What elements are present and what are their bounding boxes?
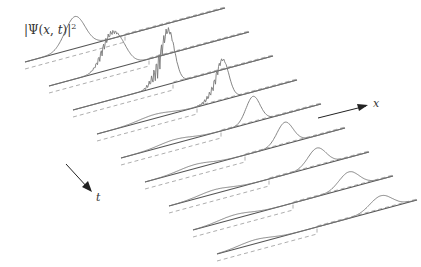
wave-packet-curve: [145, 122, 345, 182]
x-axis-label: x: [373, 97, 379, 110]
x-arrowhead-icon: [357, 104, 368, 111]
wavepacket-figure: |Ψ(x, t)|2 x t: [0, 0, 421, 267]
t-axis-label: t: [96, 191, 100, 204]
waterfall-plot: [0, 0, 421, 267]
probability-density-label: |Ψ(x, t)|2: [24, 22, 76, 37]
wave-packet-curve: [193, 172, 393, 230]
wave-packet-curve: [169, 148, 369, 206]
wave-packet-curve: [217, 195, 417, 253]
wave-packet-curve: [121, 96, 321, 158]
wave-packet-curve: [97, 59, 297, 134]
